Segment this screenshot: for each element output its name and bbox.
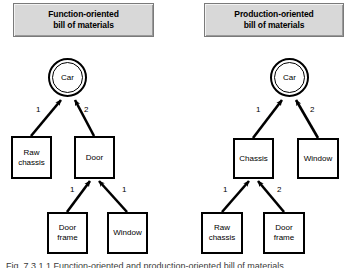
edge-label-door-doorframe: 1 [70, 186, 74, 194]
panel-title-production-oriented: Production-oriented bill of materials [204, 3, 344, 37]
node-label-line1: Window [304, 154, 332, 164]
node-label-line1: Raw [209, 223, 236, 233]
edge-label-car-rawchassis: 1 [36, 106, 40, 114]
node-label-line2: chassis [209, 233, 236, 243]
node-chassis-production: Chassis [233, 138, 274, 179]
node-label-line1: Door [57, 223, 77, 233]
node-window-function: Window [107, 212, 148, 254]
node-label-line1: Door [86, 153, 103, 163]
edge-label-car-window: 2 [310, 106, 314, 114]
node-label-line1: Chassis [239, 154, 267, 164]
node-car-function: Car [48, 58, 87, 97]
node-label-line2: frame [57, 233, 77, 243]
node-label-line2: frame [274, 233, 294, 243]
figure-caption: Fig. 7.3.1.1 Function-oriented and produ… [6, 261, 349, 268]
edge-label-chassis-rawchassis: 1 [223, 186, 227, 194]
panel-title-line2: bill of materials [234, 20, 313, 31]
node-car-production: Car [270, 58, 309, 97]
edge-label-door-window: 1 [122, 186, 126, 194]
edge-label-car-door: 2 [84, 106, 88, 114]
figure-canvas: Function-oriented bill of materials Car … [0, 0, 355, 268]
node-car-label: Car [283, 73, 296, 82]
node-raw-chassis-function: Raw chassis [11, 136, 52, 179]
edge-label-chassis-doorframe: 2 [277, 186, 281, 194]
node-door-frame-function: Door frame [47, 212, 88, 254]
panel-title-line1: Production-oriented [234, 9, 313, 20]
node-label-line1: Raw [18, 148, 45, 158]
panel-title-line1: Function-oriented [48, 9, 119, 20]
node-door-function: Door [74, 136, 115, 179]
node-raw-chassis-production: Raw chassis [201, 212, 243, 254]
panel-title-line2: bill of materials [48, 20, 119, 31]
node-label-line1: Window [113, 228, 141, 238]
node-label-line2: chassis [18, 158, 45, 168]
node-label-line1: Door [274, 223, 294, 233]
node-window-production: Window [297, 138, 339, 179]
edge-label-car-chassis: 1 [256, 106, 260, 114]
node-car-label: Car [61, 73, 74, 82]
edge-car-window [296, 100, 318, 138]
panel-title-function-oriented: Function-oriented bill of materials [13, 3, 154, 37]
node-door-frame-production: Door frame [263, 212, 305, 254]
